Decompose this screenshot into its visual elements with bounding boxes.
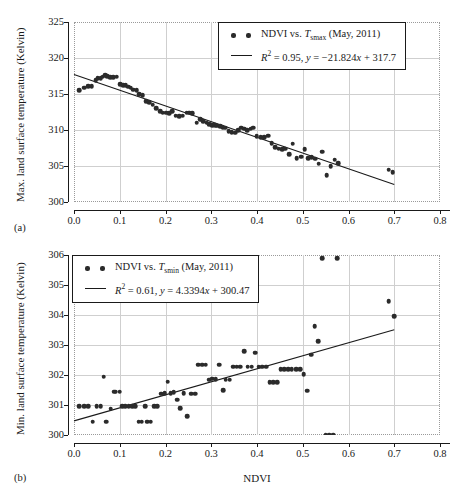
panel-b: 3003013023033043053060.00.10.20.30.40.50… — [0, 240, 465, 499]
data-point — [155, 404, 160, 409]
panel-b-tag: (b) — [14, 472, 26, 483]
data-point — [253, 350, 258, 355]
data-point — [264, 364, 269, 369]
data-point — [185, 414, 190, 419]
data-point — [386, 299, 391, 304]
panel-a: 3003053103153203250.00.10.20.30.40.50.60… — [0, 0, 465, 250]
data-point — [140, 93, 145, 98]
data-point — [90, 419, 95, 424]
data-point — [227, 377, 232, 382]
data-point — [238, 364, 243, 369]
data-point — [335, 256, 340, 261]
data-point — [287, 152, 292, 157]
legend-label-fit: R2 = 0.95, y = −21.824x + 317.7 — [256, 47, 396, 64]
legend-entry-fit: R2 = 0.95, y = −21.824x + 317.7 — [226, 47, 396, 64]
data-point — [86, 404, 91, 409]
data-point — [336, 161, 341, 166]
data-point — [299, 154, 304, 159]
data-point — [221, 388, 226, 393]
data-point — [313, 157, 318, 162]
data-point — [203, 362, 208, 367]
data-point — [324, 173, 329, 178]
data-point — [283, 146, 288, 151]
legend-dot-icon — [231, 33, 235, 37]
data-point — [298, 367, 303, 372]
data-point — [90, 84, 95, 89]
data-point — [133, 404, 138, 409]
data-point — [302, 147, 307, 152]
data-point — [305, 388, 310, 393]
data-point — [266, 133, 271, 138]
legend-line-icon — [85, 288, 106, 289]
data-point — [328, 164, 333, 169]
legend-label-scatter: NDVI vs. Tsmax (May, 2011) — [256, 27, 380, 44]
legend-entry-fit: R2 = 0.61, y = 4.3394x + 300.47 — [80, 280, 249, 297]
data-point — [214, 377, 219, 382]
data-point — [290, 141, 295, 146]
data-point — [193, 391, 198, 396]
data-point — [162, 391, 167, 396]
legend-dot-icon — [246, 33, 250, 37]
data-point — [101, 374, 106, 379]
legend-label-fit: R2 = 0.61, y = 4.3394x + 300.47 — [110, 280, 249, 297]
data-point — [275, 380, 280, 385]
data-point — [165, 379, 170, 384]
legend-dot-icon — [85, 266, 89, 270]
data-point — [217, 362, 222, 367]
panel-a-tag: (a) — [14, 222, 26, 233]
legend-line-icon — [231, 55, 252, 56]
data-point — [139, 419, 144, 424]
data-point — [242, 349, 247, 354]
data-point — [309, 353, 314, 358]
data-point — [190, 111, 195, 116]
data-point — [182, 391, 187, 396]
data-point — [312, 324, 317, 329]
data-point — [117, 389, 122, 394]
legend-marker-line — [226, 55, 256, 56]
legend-dot-icon — [100, 266, 104, 270]
legend-label-scatter: NDVI vs. Tsmin (May, 2011) — [110, 260, 233, 277]
legend-marker-dots — [80, 266, 110, 270]
data-point — [108, 406, 113, 411]
legend-entry-scatter: NDVI vs. Tsmax (May, 2011) — [226, 27, 396, 44]
data-point — [301, 372, 306, 377]
data-point — [171, 390, 176, 395]
figure-ndvi-vs-lst: 3003053103153203250.00.10.20.30.40.50.60… — [0, 0, 465, 499]
data-point — [331, 433, 336, 435]
legend-box: NDVI vs. Tsmax (May, 2011)R2 = 0.95, y =… — [218, 22, 406, 70]
legend-marker-dots — [226, 33, 256, 37]
data-point — [114, 74, 119, 79]
data-point — [98, 404, 103, 409]
data-point — [249, 364, 254, 369]
data-point — [143, 404, 148, 409]
data-point — [251, 126, 256, 131]
data-point — [149, 419, 154, 424]
data-point — [104, 419, 109, 424]
data-point — [316, 339, 321, 344]
data-point — [178, 406, 183, 411]
legend-box: NDVI vs. Tsmin (May, 2011)R2 = 0.61, y =… — [72, 255, 259, 303]
data-point — [316, 162, 321, 167]
legend-entry-scatter: NDVI vs. Tsmin (May, 2011) — [80, 260, 249, 277]
data-point — [391, 170, 396, 175]
data-point — [320, 149, 325, 154]
data-point — [320, 256, 325, 261]
data-point — [175, 398, 180, 403]
data-point — [392, 314, 397, 319]
legend-marker-line — [80, 288, 110, 289]
